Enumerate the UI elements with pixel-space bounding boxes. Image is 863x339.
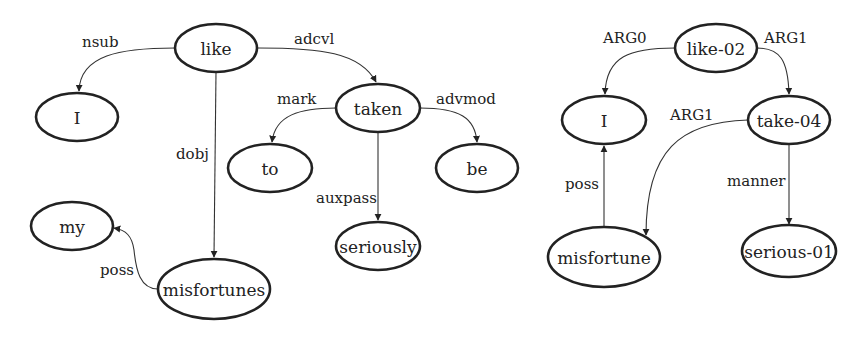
node-like: like xyxy=(175,24,257,72)
node-label-serious-01: serious-01 xyxy=(744,242,834,262)
edge-label-advmod: advmod xyxy=(436,90,496,108)
node-label-misfortunes: misfortunes xyxy=(163,280,265,300)
edge-arg1-top xyxy=(757,48,789,94)
node-label-take-04: take-04 xyxy=(757,111,822,131)
dependency-graph: nsub adcvl mark advmod dobj auxpass poss… xyxy=(31,24,518,319)
node-like-02: like-02 xyxy=(675,24,757,72)
node-my: my xyxy=(31,202,113,250)
node-taken: taken xyxy=(336,84,420,132)
edge-label-mark: mark xyxy=(277,90,317,108)
node-label-seriously: seriously xyxy=(339,237,417,257)
edge-poss xyxy=(114,228,158,289)
edge-dobj xyxy=(214,72,216,257)
node-misfortune: misfortune xyxy=(548,227,660,287)
edge-label-arg0: ARG0 xyxy=(602,29,647,47)
edge-label-manner: manner xyxy=(727,172,786,190)
edge-label-arg1-top: ARG1 xyxy=(763,29,808,47)
edge-adcvl xyxy=(258,48,376,82)
node-label-like-02: like-02 xyxy=(687,39,746,59)
node-be: be xyxy=(436,144,518,192)
edge-nsub xyxy=(79,48,175,91)
node-label-I-amr: I xyxy=(601,111,608,131)
node-label-my: my xyxy=(59,217,85,237)
node-misfortunes: misfortunes xyxy=(158,259,270,319)
node-label-taken: taken xyxy=(354,99,402,119)
node-label-like: like xyxy=(200,39,231,59)
node-take-04: take-04 xyxy=(748,96,830,144)
node-label-misfortune: misfortune xyxy=(557,248,651,268)
node-to: to xyxy=(228,144,312,192)
edge-advmod xyxy=(420,108,477,142)
node-label-be: be xyxy=(467,159,488,179)
node-seriously: seriously xyxy=(336,222,420,270)
amr-graph: ARG0 ARG1 ARG1 poss manner like-02 I tak… xyxy=(548,24,836,287)
edge-label-auxpass: auxpass xyxy=(316,189,377,207)
diagram-canvas: nsub adcvl mark advmod dobj auxpass poss… xyxy=(0,0,863,339)
edge-label-poss: poss xyxy=(100,261,134,279)
node-serious-01: serious-01 xyxy=(742,225,836,277)
node-label-to: to xyxy=(261,159,278,179)
edge-label-dobj: dobj xyxy=(176,145,209,163)
node-I-amr: I xyxy=(562,96,646,144)
edge-label-nsub: nsub xyxy=(82,33,119,51)
edge-label-adcvl: adcvl xyxy=(294,30,334,48)
edge-label-arg1-take: ARG1 xyxy=(669,106,714,124)
node-label-I: I xyxy=(74,108,81,128)
edge-arg0 xyxy=(605,48,675,94)
edge-mark xyxy=(272,108,336,142)
edge-label-poss-amr: poss xyxy=(565,175,599,193)
node-I: I xyxy=(36,93,118,141)
